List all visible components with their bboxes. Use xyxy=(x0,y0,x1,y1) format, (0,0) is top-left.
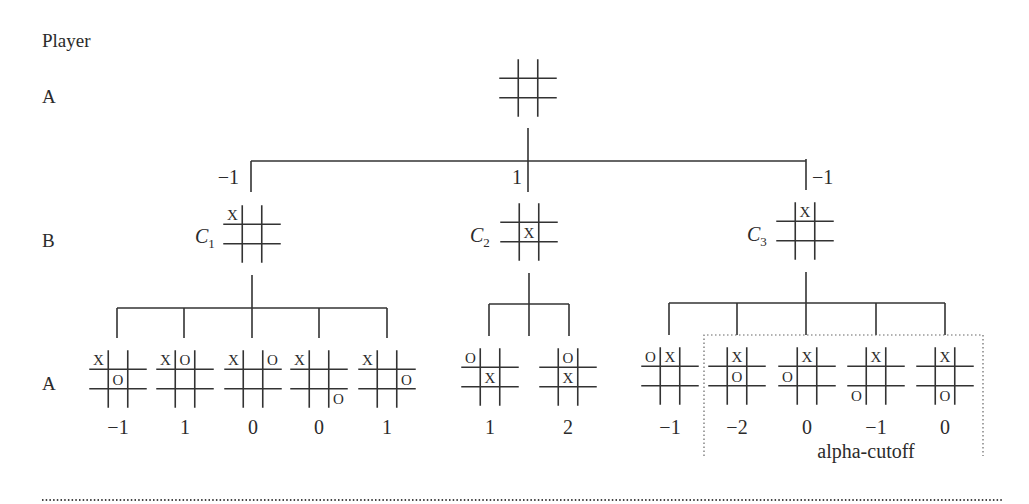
leaf-board: XO xyxy=(847,347,905,405)
leaf-board: OX xyxy=(461,348,519,406)
leaf-board: XO xyxy=(89,350,147,408)
leaf-board: XO xyxy=(778,347,836,405)
o-mark: O xyxy=(333,391,344,407)
player-header: Player xyxy=(42,30,91,51)
leaf-value: 1 xyxy=(180,416,190,438)
board-c1: X xyxy=(223,205,281,263)
board-c2: X xyxy=(500,203,558,261)
o-mark: O xyxy=(401,372,412,388)
x-mark: X xyxy=(940,349,951,365)
leaf-board: XO xyxy=(358,350,416,408)
o-mark: O xyxy=(113,372,124,388)
o-mark: O xyxy=(732,369,743,385)
o-mark: O xyxy=(180,352,191,368)
leaf-value: −2 xyxy=(726,416,747,438)
x-mark: X xyxy=(563,370,574,386)
leaf-value: 0 xyxy=(802,416,812,438)
x-mark: X xyxy=(227,207,238,223)
leaf-value: −1 xyxy=(865,416,886,438)
o-mark: O xyxy=(940,388,951,404)
minimax-value-c3: −1 xyxy=(812,166,833,188)
leaf-board: XO xyxy=(290,350,348,408)
o-mark: O xyxy=(851,388,862,404)
x-mark: X xyxy=(871,349,882,365)
alpha-cutoff-label: alpha-cutoff xyxy=(817,440,915,463)
leaf-value: 1 xyxy=(485,416,495,438)
node-label-c1: C1 xyxy=(195,225,215,251)
root-board xyxy=(499,59,557,117)
x-mark: X xyxy=(362,352,373,368)
game-tree-diagram: Player ABA XXOXOXOXOXOXOXOXXOXXOXOXOXO −… xyxy=(0,0,1029,504)
leaf-value: 0 xyxy=(940,416,950,438)
x-mark: X xyxy=(485,370,496,386)
leaf-value: −1 xyxy=(107,416,128,438)
node-label-c2: C2 xyxy=(470,224,490,250)
leaf-board: XO xyxy=(156,350,214,408)
leaf-value: 1 xyxy=(382,416,392,438)
x-mark: X xyxy=(524,225,535,241)
o-mark: O xyxy=(782,369,793,385)
tree-boards: XXOXOXOXOXOXOXOXXOXXOXOXOXO xyxy=(89,59,974,408)
leaf-value: 0 xyxy=(248,416,258,438)
board-c3: X xyxy=(776,202,834,260)
leaf-board: XO xyxy=(224,350,282,408)
x-mark: X xyxy=(93,352,104,368)
x-mark: X xyxy=(665,349,676,365)
player-level-label: A xyxy=(42,373,56,394)
o-mark: O xyxy=(563,350,574,366)
x-mark: X xyxy=(294,352,305,368)
leaf-board: XO xyxy=(708,347,766,405)
x-mark: X xyxy=(802,349,813,365)
player-level-label: A xyxy=(42,86,56,107)
o-mark: O xyxy=(645,349,656,365)
x-mark: X xyxy=(160,352,171,368)
game-tree-canvas: Player ABA XXOXOXOXOXOXOXOXXOXXOXOXOXO −… xyxy=(0,0,1029,504)
x-mark: X xyxy=(228,352,239,368)
leaf-value: 2 xyxy=(563,416,573,438)
player-level-labels: ABA xyxy=(42,86,56,394)
minimax-value-c1: −1 xyxy=(218,166,239,188)
o-mark: O xyxy=(267,352,278,368)
o-mark: O xyxy=(465,350,476,366)
player-level-label: B xyxy=(42,230,55,251)
node-label-c3: C3 xyxy=(747,223,767,249)
x-mark: X xyxy=(732,349,743,365)
leaf-value: 0 xyxy=(314,416,324,438)
leaf-board: XO xyxy=(916,347,974,405)
x-mark: X xyxy=(800,204,811,220)
leaf-board: OX xyxy=(539,348,597,406)
leaf-value: −1 xyxy=(659,416,680,438)
leaf-board: OX xyxy=(641,347,699,405)
minimax-value-c2: 1 xyxy=(512,166,522,188)
